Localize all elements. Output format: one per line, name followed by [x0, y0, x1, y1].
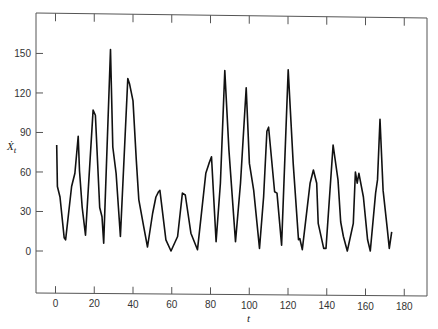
x-axis-ticks: 020406080100120140160180 — [53, 286, 413, 312]
y-axis-label: Ẋt — [6, 140, 17, 155]
x-tick-label: 20 — [89, 298, 101, 309]
x-tick-label: 180 — [396, 301, 413, 312]
y-tick-label: 90 — [20, 127, 32, 138]
y-tick-label: 30 — [20, 206, 32, 217]
x-tick-label: 160 — [357, 301, 374, 312]
x-tick-label: 40 — [127, 299, 139, 310]
y-tick-label: 60 — [20, 167, 32, 178]
x-tick-label: 120 — [280, 300, 297, 311]
data-series-line — [57, 50, 392, 252]
x-tick-label: 60 — [166, 299, 178, 310]
y-axis-label-subscript: t — [14, 145, 17, 155]
x-axis-label: t — [247, 312, 251, 324]
y-axis-ticks: 0306090120150 — [14, 48, 43, 257]
x-tick-label: 100 — [241, 300, 258, 311]
y-tick-label: 120 — [14, 88, 31, 99]
y-tick-label: 0 — [25, 246, 31, 257]
x-tick-label: 80 — [205, 299, 217, 310]
x-tick-label: 140 — [318, 300, 335, 311]
y-tick-label: 150 — [14, 48, 31, 59]
time-series-chart: 020406080100120140160180 0306090120150 t… — [0, 0, 438, 329]
plot-frame — [36, 13, 427, 296]
x-tick-label: 0 — [53, 298, 59, 309]
